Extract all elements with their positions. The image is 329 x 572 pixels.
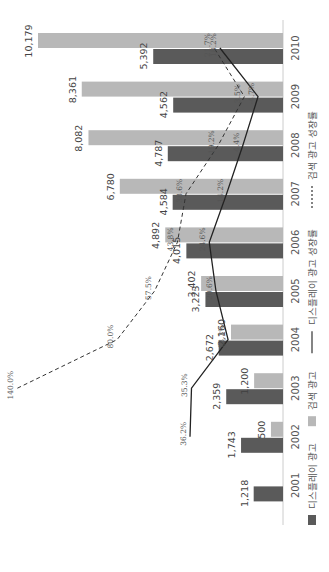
label-search-2007: 6,780 <box>105 173 116 200</box>
label-search-growth-2010: 21.7% <box>203 33 212 57</box>
label-display-growth-2009: -4.7% <box>247 83 256 105</box>
label-display-2003: 2,359 <box>211 383 222 410</box>
bar-display-2001 <box>254 486 283 501</box>
year-tick-2006: 2006 <box>290 230 301 255</box>
label-search-2006: 4,892 <box>150 222 161 249</box>
label-search-growth-2003: 140.0% <box>6 371 15 400</box>
legend-label-2: 디스플레이 광고 성장률 <box>307 229 318 325</box>
bar-display-2004 <box>219 341 283 356</box>
bar-display-2010 <box>153 49 283 64</box>
label-search-2008: 8,082 <box>73 125 84 152</box>
label-search-growth-2008: 19.2% <box>207 130 216 154</box>
legend-swatch-display <box>308 515 316 525</box>
label-search-2009: 8,361 <box>67 76 78 103</box>
label-display-growth-2005: 20.6% <box>205 276 214 300</box>
year-tick-2001: 2001 <box>290 473 301 498</box>
label-search-2010: 10,179 <box>23 24 34 57</box>
label-search-growth-2004: 80.0% <box>106 325 115 349</box>
label-display-growth-2007: 14.2% <box>216 179 225 203</box>
label-display-2009: 4,562 <box>158 91 169 118</box>
label-search-growth-2007: 38.6% <box>175 179 184 203</box>
bar-display-2003 <box>226 389 283 404</box>
bar-search-2004 <box>231 325 283 340</box>
label-display-2004: 2,672 <box>204 334 215 361</box>
year-tick-2005: 2005 <box>290 278 301 303</box>
year-tick-2009: 2009 <box>290 84 301 109</box>
bar-display-2008 <box>168 146 283 161</box>
legend-label-1: 검색 광고 <box>307 371 318 410</box>
year-tick-2010: 2010 <box>290 35 301 60</box>
year-tick-2007: 2007 <box>290 181 301 206</box>
label-search-growth-2009: 3.5% <box>233 84 242 103</box>
label-display-growth-2002: 36.2% <box>179 422 188 446</box>
year-tick-2008: 2008 <box>290 132 301 157</box>
bar-search-2002 <box>271 422 283 437</box>
label-search-2005: 3,402 <box>186 270 197 297</box>
legend-item-1: 검색 광고 <box>307 371 318 426</box>
legend-label-0: 디스플레이 광고 <box>307 443 318 509</box>
label-display-2008: 4,787 <box>153 140 164 167</box>
bar-search-2006 <box>165 227 283 242</box>
legend-label-3: 검색 광고 성장률 <box>307 111 318 180</box>
bar-search-2010 <box>38 33 283 48</box>
year-tick-2002: 2002 <box>290 424 301 449</box>
year-tick-2004: 2004 <box>290 327 301 352</box>
label-display-growth-2008: 4.4% <box>232 133 241 152</box>
legend: 디스플레이 광고검색 광고디스플레이 광고 성장률검색 광고 성장률 <box>307 111 318 525</box>
label-display-2010: 5,392 <box>138 42 149 69</box>
year-tick-2003: 2003 <box>290 375 301 400</box>
label-display-2001: 1,218 <box>239 480 250 507</box>
label-search-growth-2006: 43.8% <box>166 227 175 251</box>
legend-item-3: 검색 광고 성장률 <box>307 111 318 208</box>
bar-display-2009 <box>173 98 283 113</box>
bar-display-2007 <box>173 195 283 210</box>
label-display-2007: 4,584 <box>158 188 169 215</box>
label-search-growth-2005: 57.5% <box>144 276 153 300</box>
label-search-2003: 1,200 <box>239 368 250 395</box>
bar-display-2002 <box>241 438 283 453</box>
legend-item-2: 디스플레이 광고 성장률 <box>307 229 318 353</box>
bar-search-2003 <box>254 373 283 388</box>
label-display-growth-2003: 35.3% <box>180 373 189 397</box>
legend-item-0: 디스플레이 광고 <box>307 443 318 525</box>
label-display-2002: 1,743 <box>226 431 237 458</box>
bar-search-2007 <box>120 179 283 194</box>
legend-swatch-search <box>308 416 316 426</box>
label-display-growth-2004: 13.3% <box>217 325 226 349</box>
chart: 1,2181,7435002,3591,2002,6722,1603,2233,… <box>0 0 329 572</box>
bar-search-2008 <box>88 130 283 145</box>
label-display-growth-2006: 24.6% <box>198 227 207 251</box>
label-search-2002: 500 <box>256 421 267 439</box>
